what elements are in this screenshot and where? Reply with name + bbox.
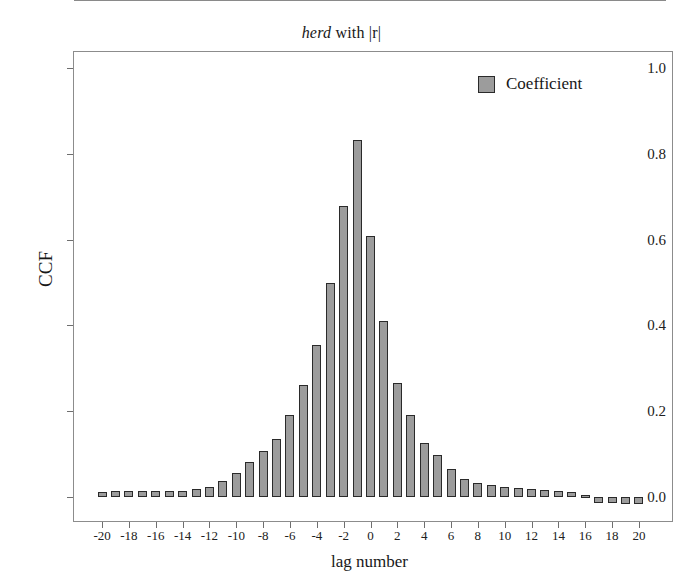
bar <box>111 491 120 497</box>
bar <box>447 469 456 497</box>
x-tick-label: 0 <box>367 528 374 544</box>
x-tick-mark <box>612 522 613 528</box>
bar <box>406 415 415 497</box>
x-tick-label: -2 <box>338 528 349 544</box>
x-tick-label: -20 <box>93 528 110 544</box>
y-tick-mark <box>67 154 73 155</box>
x-tick-mark <box>451 522 452 528</box>
y-tick-mark <box>67 411 73 412</box>
y-tick-mark <box>67 497 73 498</box>
bar <box>594 497 603 503</box>
x-tick-mark <box>558 522 559 528</box>
bar <box>192 489 201 497</box>
bar <box>581 495 590 498</box>
y-tick-label: 1.0 <box>624 60 666 77</box>
bar <box>500 487 509 497</box>
bar <box>138 491 147 497</box>
bar <box>634 497 643 504</box>
x-tick-label: -4 <box>311 528 322 544</box>
bar <box>460 479 469 497</box>
y-tick-label: 0.6 <box>624 231 666 248</box>
bar <box>567 492 576 497</box>
legend-label-coefficient: Coefficient <box>506 74 582 94</box>
y-tick-label: 0.4 <box>624 317 666 334</box>
bar <box>433 455 442 497</box>
bar <box>245 462 254 497</box>
bar <box>514 488 523 497</box>
x-tick-mark <box>129 522 130 528</box>
y-tick-label: 0.8 <box>624 145 666 162</box>
x-tick-mark <box>183 522 184 528</box>
x-tick-mark <box>344 522 345 528</box>
bar <box>205 487 214 497</box>
x-tick-label: -8 <box>258 528 269 544</box>
bar <box>473 483 482 497</box>
bar <box>540 490 549 497</box>
x-tick-label: -18 <box>120 528 137 544</box>
bar <box>165 491 174 497</box>
bar <box>272 439 281 497</box>
bar <box>339 206 348 497</box>
chart-title-italic: herd <box>302 24 332 41</box>
bar <box>98 492 107 497</box>
y-tick-mark <box>67 325 73 326</box>
x-tick-mark <box>397 522 398 528</box>
x-tick-mark <box>209 522 210 528</box>
bar <box>312 345 321 497</box>
x-tick-mark <box>317 522 318 528</box>
x-tick-label: -6 <box>285 528 296 544</box>
y-tick-mark <box>67 240 73 241</box>
bar <box>608 497 617 503</box>
bar <box>259 451 268 497</box>
x-tick-label: 4 <box>421 528 428 544</box>
x-tick-mark <box>156 522 157 528</box>
x-tick-mark <box>263 522 264 528</box>
x-tick-label: -10 <box>228 528 245 544</box>
bar <box>218 481 227 497</box>
bar <box>621 497 630 504</box>
x-axis-label: lag number <box>73 552 666 572</box>
bar <box>393 383 402 497</box>
bar <box>527 489 536 497</box>
bar <box>366 236 375 497</box>
bar <box>178 491 187 497</box>
x-tick-label: 16 <box>579 528 592 544</box>
x-tick-mark <box>478 522 479 528</box>
bar <box>353 140 362 497</box>
x-tick-mark <box>290 522 291 528</box>
x-tick-label: 10 <box>498 528 511 544</box>
bar <box>299 385 308 497</box>
bar <box>232 473 241 497</box>
x-tick-mark <box>532 522 533 528</box>
x-tick-mark <box>585 522 586 528</box>
y-tick-label: 0.2 <box>624 403 666 420</box>
bar <box>554 491 563 497</box>
x-tick-label: 2 <box>394 528 401 544</box>
bar <box>379 321 388 497</box>
x-tick-label: 14 <box>552 528 565 544</box>
x-tick-label: -16 <box>147 528 164 544</box>
x-tick-mark <box>505 522 506 528</box>
chart-title-rest: with |r| <box>331 24 381 41</box>
bar <box>326 283 335 498</box>
bar <box>124 491 133 497</box>
x-tick-label: 20 <box>632 528 645 544</box>
x-tick-mark <box>236 522 237 528</box>
y-tick-mark <box>67 68 73 69</box>
bar <box>151 491 160 497</box>
legend: Coefficient <box>478 74 582 94</box>
x-tick-label: 18 <box>606 528 619 544</box>
bar <box>420 443 429 497</box>
bar <box>487 485 496 497</box>
x-tick-label: -14 <box>174 528 191 544</box>
zero-baseline <box>74 0 666 1</box>
x-tick-mark <box>424 522 425 528</box>
x-tick-label: 6 <box>448 528 455 544</box>
x-tick-label: 8 <box>475 528 482 544</box>
x-tick-mark <box>639 522 640 528</box>
x-tick-label: -12 <box>201 528 218 544</box>
legend-swatch-coefficient <box>478 76 495 93</box>
bar <box>285 415 294 497</box>
y-tick-label: 0.0 <box>624 489 666 506</box>
